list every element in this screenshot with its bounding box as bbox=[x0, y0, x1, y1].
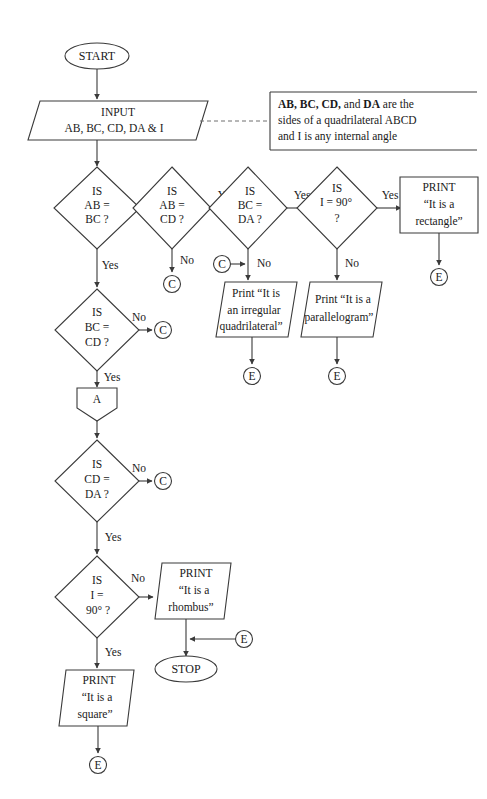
decision-i-eq-90-top-line1: IS bbox=[332, 182, 342, 194]
decision-bc-eq-cd-line1: IS bbox=[92, 306, 102, 318]
decision-ab-eq-bc-line1: IS bbox=[92, 185, 102, 197]
decision-ab-eq-bc: IS AB = BC ? bbox=[54, 167, 140, 249]
note-line2: sides of a quadrilateral ABCD bbox=[278, 114, 417, 127]
decision-i-eq-90-top-line3: ? bbox=[334, 212, 339, 224]
output-rectangle: PRINT “It is a rectangle” bbox=[400, 177, 478, 233]
output-square-line3: square” bbox=[77, 708, 112, 721]
note-line3: and I is any internal angle bbox=[278, 130, 397, 143]
note-bold-ab: AB, bbox=[278, 98, 297, 110]
connector-c-from-d6: C bbox=[155, 473, 172, 490]
label-d7-no: No bbox=[131, 572, 145, 584]
connector-a: A bbox=[77, 388, 117, 421]
note-bold-da: DA bbox=[363, 98, 380, 110]
label-d3-no: No bbox=[257, 257, 271, 269]
output-square-line2: “It is a bbox=[82, 691, 113, 703]
decision-bc-eq-da-line2: BC = bbox=[238, 199, 263, 211]
connector-e-square: E bbox=[90, 757, 107, 774]
io-input: INPUT AB, BC, CD, DA & I bbox=[28, 101, 208, 140]
connector-c-from-d5: C bbox=[155, 322, 172, 339]
decision-bc-eq-da-line1: IS bbox=[245, 185, 255, 197]
decision-cd-eq-da: IS CD = DA ? bbox=[55, 440, 139, 522]
output-irregular: Print “It is an irregular quadrilateral” bbox=[216, 282, 297, 337]
decision-i-eq-90-top-line2: I = 90° bbox=[320, 196, 353, 208]
decision-cd-eq-da-line3: DA ? bbox=[85, 488, 109, 500]
note-bold-bc: BC, bbox=[300, 98, 319, 110]
note-plain-arethe: are the bbox=[383, 98, 414, 110]
connector-e-irregular-label: E bbox=[248, 370, 255, 382]
connector-c-from-d6-label: C bbox=[159, 475, 167, 487]
output-square-line1: PRINT bbox=[82, 674, 115, 686]
connector-c-from-d2-label: C bbox=[168, 278, 176, 290]
decision-i-eq-90-bottom-line3: 90° ? bbox=[86, 604, 110, 616]
decision-bc-eq-da: IS BC = DA ? bbox=[209, 167, 287, 249]
flowchart-canvas: START INPUT AB, BC, CD, DA & I AB, BC, C… bbox=[0, 0, 487, 799]
connector-c-into-d3-no: C bbox=[214, 256, 231, 273]
connector-e-irregular: E bbox=[244, 368, 261, 385]
output-rectangle-line2: “It is a bbox=[424, 198, 455, 210]
output-irregular-line2: an irregular bbox=[227, 304, 280, 317]
io-input-line2: AB, BC, CD, DA & I bbox=[64, 122, 163, 135]
connector-a-label: A bbox=[93, 393, 102, 405]
decision-ab-eq-bc-line2: AB = bbox=[84, 199, 109, 211]
decision-i-eq-90-bottom-line2: I = bbox=[90, 589, 103, 601]
decision-bc-eq-cd-line2: BC = bbox=[85, 321, 110, 333]
label-d5-yes: Yes bbox=[104, 371, 121, 383]
connector-e-rectangle-label: E bbox=[435, 271, 442, 283]
output-rhombus-line2: “It is a bbox=[179, 584, 210, 596]
note-line1: AB, BC, CD, and DA are the bbox=[278, 98, 414, 110]
output-rhombus: PRINT “It is a rhombus” bbox=[155, 563, 231, 619]
output-rectangle-line1: PRINT bbox=[422, 181, 455, 193]
terminal-stop: STOP bbox=[155, 656, 217, 682]
terminal-stop-label: STOP bbox=[171, 662, 200, 676]
output-parallelogram-line1: Print “It is a bbox=[315, 293, 371, 305]
note-plain-and: and bbox=[344, 98, 361, 110]
annotation-note: AB, BC, CD, and DA are the sides of a qu… bbox=[270, 92, 477, 150]
decision-bc-eq-cd: IS BC = CD ? bbox=[55, 289, 139, 371]
terminal-start: START bbox=[65, 43, 129, 69]
decision-cd-eq-da-line2: CD = bbox=[84, 473, 109, 485]
output-parallelogram-line2: parallelogram” bbox=[305, 311, 374, 324]
output-square: PRINT “It is a square” bbox=[59, 670, 134, 726]
connector-e-rectangle: E bbox=[431, 269, 448, 286]
decision-i-eq-90-top: IS I = 90° ? bbox=[297, 167, 377, 249]
decision-ab-eq-cd-line3: CD ? bbox=[160, 213, 184, 225]
io-input-line1: INPUT bbox=[101, 106, 135, 118]
connector-c-into-d3-no-label: C bbox=[218, 258, 226, 270]
label-d4-no: No bbox=[345, 257, 359, 269]
flowchart-svg: START INPUT AB, BC, CD, DA & I AB, BC, C… bbox=[0, 0, 487, 799]
output-irregular-line1: Print “It is bbox=[232, 287, 280, 299]
connector-c-from-d5-label: C bbox=[159, 324, 167, 336]
label-d5-no: No bbox=[132, 311, 146, 323]
decision-ab-eq-cd-line1: IS bbox=[167, 185, 177, 197]
connector-e-parallelogram-label: E bbox=[333, 370, 340, 382]
label-d6-no: No bbox=[132, 462, 146, 474]
output-rhombus-line1: PRINT bbox=[179, 567, 212, 579]
decision-i-eq-90-bottom: IS I = 90° ? bbox=[55, 556, 139, 638]
decision-ab-eq-cd-line2: AB = bbox=[159, 199, 184, 211]
decision-bc-eq-cd-line3: CD ? bbox=[85, 336, 109, 348]
label-d2-no: No bbox=[180, 254, 194, 266]
decision-ab-eq-cd: IS AB = CD ? bbox=[133, 167, 211, 249]
label-d6-yes: Yes bbox=[105, 531, 122, 543]
label-d1-yes: Yes bbox=[102, 259, 119, 271]
connector-e-into-stop: E bbox=[236, 631, 253, 648]
connector-e-square-label: E bbox=[94, 759, 101, 771]
connector-e-into-stop-label: E bbox=[240, 633, 247, 645]
decision-bc-eq-da-line3: DA ? bbox=[238, 213, 262, 225]
output-rectangle-line3: rectangle” bbox=[415, 215, 462, 228]
output-parallelogram: Print “It is a parallelogram” bbox=[301, 282, 382, 337]
output-irregular-line3: quadrilateral” bbox=[219, 320, 282, 333]
label-d4-yes: Yes bbox=[382, 189, 399, 201]
note-bold-cd: CD, bbox=[321, 98, 341, 110]
decision-ab-eq-bc-line3: BC ? bbox=[85, 213, 108, 225]
connector-e-parallelogram: E bbox=[329, 368, 346, 385]
terminal-start-label: START bbox=[79, 49, 116, 63]
decision-i-eq-90-bottom-line1: IS bbox=[92, 574, 102, 586]
connector-c-from-d2: C bbox=[164, 276, 181, 293]
label-d7-yes: Yes bbox=[105, 646, 122, 658]
decision-cd-eq-da-line1: IS bbox=[92, 458, 102, 470]
output-rhombus-line3: rhombus” bbox=[168, 601, 213, 613]
